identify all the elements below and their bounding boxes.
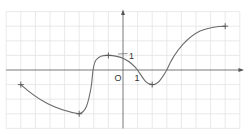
x-axis-arrow-icon [239,68,245,72]
y-unit-leader [118,54,128,55]
y-axis-arrow-icon [121,10,125,16]
origin-label: O [115,73,122,83]
function-graph: O 1 1 [0,0,252,134]
y-unit-label: 1 [129,51,134,61]
point-marker-maximum [105,52,111,58]
x-unit-label: 1 [135,73,140,83]
point-marker-minimum [76,111,82,117]
point-marker-end [222,23,228,29]
point-marker-local-minimum [149,82,155,88]
